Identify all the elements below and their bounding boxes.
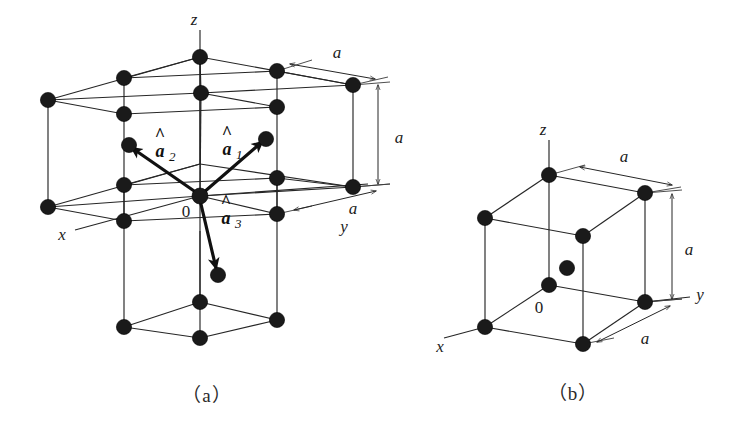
panel-b-dimensions <box>549 165 682 344</box>
panel-a-basis-vectors <box>132 142 262 268</box>
lattice-node <box>637 294 652 309</box>
panel-b-x-axis-label: x <box>435 337 444 356</box>
svg-text:a: a <box>156 141 165 161</box>
panel-b-labels: z x y 0 a a a <box>435 120 704 356</box>
panel-b-z-axis-label: z <box>539 120 547 139</box>
lattice-node <box>269 63 284 78</box>
lattice-node <box>269 206 284 221</box>
lattice-node <box>269 170 284 185</box>
lattice-node <box>345 179 360 194</box>
lattice-node <box>269 312 284 327</box>
svg-text:3: 3 <box>234 216 242 231</box>
lattice-node <box>116 106 131 121</box>
panel-b-vertical-dim-label: a <box>685 240 694 259</box>
vector-a1-arrow <box>203 142 262 193</box>
lattice-node <box>345 77 360 92</box>
panel-a-x-axis-label: x <box>57 225 66 244</box>
vector-a3-arrow <box>200 200 216 268</box>
lattice-node-origin <box>192 188 208 204</box>
lattice-node <box>637 185 652 200</box>
lattice-node <box>193 85 208 100</box>
lattice-node-a2-tip <box>121 137 136 152</box>
svg-text:1: 1 <box>236 147 243 162</box>
vector-a2-arrow <box>132 148 197 193</box>
lattice-node <box>40 199 55 214</box>
panel-a-bottom-dim-line <box>294 191 376 210</box>
panel-b-bottom-dim-line <box>597 306 670 342</box>
panel-a-vertical-dim-label: a <box>395 128 404 147</box>
panel-b-bottom-dim-label: a <box>641 329 650 348</box>
svg-text:2: 2 <box>169 149 176 164</box>
panel-a-origin-label: 0 <box>182 202 191 221</box>
panel-b-lattice-edges <box>485 175 645 344</box>
panel-a-caption: （a） <box>182 385 231 406</box>
panel-a-y-axis-label: y <box>338 217 348 236</box>
svg-text:a: a <box>222 208 231 228</box>
svg-text:a: a <box>223 139 232 159</box>
panel-b-origin-label: 0 <box>535 298 544 317</box>
panel-a-group: z x y 0 a a a ^ a 2 ^ a 1 ^ a 3 <box>40 10 403 406</box>
panel-a-z-axis-label: z <box>190 10 198 29</box>
lattice-node <box>116 319 131 334</box>
panel-b-caption: （b） <box>548 383 599 404</box>
vector-a2-label: ^ a 2 <box>155 125 176 164</box>
lattice-node <box>541 167 556 182</box>
panel-a-bottom-dim-label: a <box>349 199 358 218</box>
lattice-node <box>40 92 55 107</box>
panel-b-top-dim-line <box>580 167 672 185</box>
panel-b-y-axis-label: y <box>694 285 704 304</box>
lattice-node <box>192 294 207 309</box>
crystal-lattice-figure: z x y 0 a a a ^ a 2 ^ a 1 ^ a 3 <box>0 0 729 432</box>
lattice-node <box>575 228 590 243</box>
lattice-node <box>192 330 207 345</box>
panel-b-group: z x y 0 a a a （b） <box>435 120 704 404</box>
lattice-node <box>116 70 131 85</box>
lattice-node <box>269 99 284 114</box>
lattice-node <box>575 336 590 351</box>
panel-a-labels: z x y 0 a a a ^ a 2 ^ a 1 ^ a 3 <box>57 10 403 244</box>
panel-b-top-dim-label: a <box>620 147 629 166</box>
lattice-node-a3-tip <box>210 267 225 282</box>
panel-a-top-dim-label: a <box>333 43 342 62</box>
vector-a1-label: ^ a 1 <box>222 123 243 162</box>
lattice-node <box>477 319 492 334</box>
vector-a3-label: ^ a 3 <box>221 192 242 231</box>
panel-a-lattice-nodes <box>40 49 360 345</box>
panel-b-lattice-nodes <box>477 167 652 351</box>
lattice-node-a1-tip <box>258 131 273 146</box>
lattice-node <box>477 210 492 225</box>
lattice-node-body-centre <box>559 260 574 275</box>
panel-a-top-dim-line <box>290 64 375 79</box>
lattice-node <box>541 277 556 292</box>
lattice-node <box>192 49 207 64</box>
lattice-node <box>116 177 131 192</box>
lattice-node <box>116 213 131 228</box>
